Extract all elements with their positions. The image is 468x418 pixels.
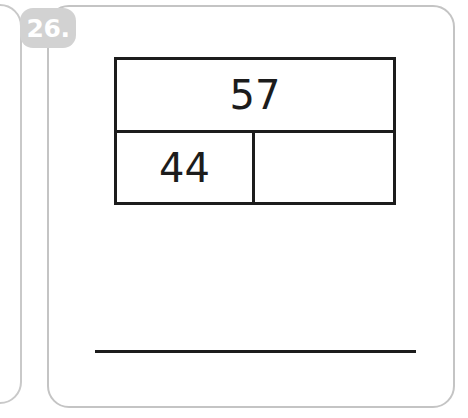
bar-model-parts-row: 44 bbox=[117, 133, 393, 202]
worksheet-problem-page: 26. 57 44 bbox=[0, 0, 468, 418]
problem-number-label: 26. bbox=[27, 16, 70, 41]
bar-model-whole-cell[interactable]: 57 bbox=[117, 60, 393, 133]
adjacent-problem-card-edge bbox=[0, 4, 22, 404]
bar-model-part-value-known: 44 bbox=[159, 148, 210, 188]
bar-model-whole-value: 57 bbox=[230, 75, 281, 115]
problem-number-badge: 26. bbox=[20, 8, 76, 48]
answer-blank-line[interactable] bbox=[95, 350, 416, 353]
bar-model-part-cell-known[interactable]: 44 bbox=[117, 133, 255, 202]
bar-model-part-cell-unknown[interactable] bbox=[255, 133, 393, 202]
bar-model-diagram: 57 44 bbox=[114, 57, 396, 205]
